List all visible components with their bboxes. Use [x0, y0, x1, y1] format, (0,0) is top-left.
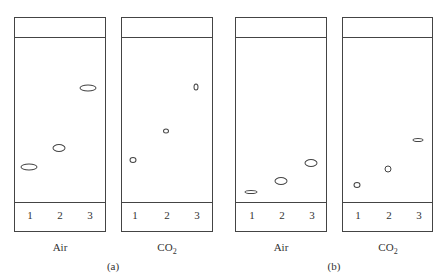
- plate-lane-strip: 1 2 3: [343, 202, 432, 231]
- plate-header: [15, 18, 105, 38]
- spot-a-co2-1: [130, 157, 137, 163]
- lane-label-3: 3: [309, 209, 315, 221]
- plate-label-air: Air: [274, 241, 289, 253]
- spot-b-air-2: [275, 177, 288, 185]
- plate-label-air: Air: [53, 241, 68, 253]
- tlc-plate-b-co2: 1 2 3: [342, 17, 433, 232]
- lane-label-2: 2: [164, 209, 170, 221]
- lane-label-3: 3: [194, 209, 200, 221]
- spot-a-air-2: [53, 144, 66, 152]
- spot-a-air-3: [80, 85, 97, 92]
- spot-b-co2-1: [354, 182, 361, 188]
- lane-label-3: 3: [416, 209, 422, 221]
- plate-lane-strip: 1 2 3: [236, 202, 326, 231]
- spot-b-air-3: [305, 159, 318, 167]
- plate-label-co2: CO2: [378, 241, 397, 256]
- spot-a-co2-2: [163, 129, 169, 134]
- plate-lane-strip: 1 2 3: [15, 202, 105, 231]
- lane-label-3: 3: [87, 209, 93, 221]
- spot-b-co2-2: [385, 166, 392, 173]
- plate-header: [236, 18, 326, 38]
- plate-header: [343, 18, 432, 38]
- spot-a-air-1: [21, 164, 38, 171]
- caption-a: (a): [107, 260, 119, 272]
- lane-label-2: 2: [279, 209, 285, 221]
- caption-b: (b): [328, 260, 341, 272]
- tlc-plate-b-air: 1 2 3: [235, 17, 327, 232]
- lane-label-1: 1: [27, 209, 33, 221]
- plate-header: [122, 18, 212, 38]
- tlc-plate-a-co2: 1 2 3: [121, 17, 213, 232]
- lane-label-2: 2: [386, 209, 392, 221]
- lane-label-1: 1: [132, 209, 138, 221]
- plate-label-co2: CO2: [157, 241, 176, 256]
- lane-label-1: 1: [249, 209, 255, 221]
- plate-lane-strip: 1 2 3: [122, 202, 212, 231]
- tlc-plate-a-air: 1 2 3: [14, 17, 106, 232]
- lane-label-1: 1: [355, 209, 361, 221]
- spot-a-co2-3: [194, 84, 199, 91]
- spot-b-air-1: [245, 190, 258, 194]
- lane-label-2: 2: [57, 209, 63, 221]
- spot-b-co2-3: [413, 138, 424, 142]
